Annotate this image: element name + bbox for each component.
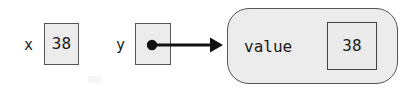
- object-field-value-value: 38: [328, 38, 376, 54]
- object-field-box-value: 38: [327, 22, 377, 70]
- arrow-head-icon: [210, 38, 223, 53]
- object-bubble: value 38: [227, 8, 398, 84]
- reference-diagram: x 38 y value 38: [0, 0, 410, 93]
- scan-artifact: [88, 76, 102, 83]
- object-field-label-value: value: [244, 39, 292, 55]
